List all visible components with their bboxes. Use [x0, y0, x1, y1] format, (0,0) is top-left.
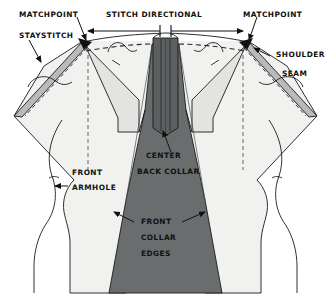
- matchpoint-right-leader: [249, 17, 257, 40]
- shoulder-seam-label-line2: SEAM: [282, 69, 307, 78]
- matchpoint-left-label: MATCHPOINT: [19, 10, 78, 19]
- matchpoint-right-label: MATCHPOINT: [243, 10, 302, 19]
- center-back-collar-label-line2: BACK COLLAR: [137, 167, 200, 176]
- matchpoint-left-leader: [77, 17, 86, 40]
- front-collar-edges-label-line3: EDGES: [141, 249, 171, 258]
- front-collar-edges-label-line1: FRONT: [141, 217, 172, 226]
- right-armhole-notch: [272, 177, 282, 179]
- left-armhole-notch: [49, 177, 59, 179]
- shoulder-seam-label-line1: SHOULDER: [276, 50, 325, 59]
- front-collar-edges-label-line2: COLLAR: [141, 233, 176, 242]
- front-armhole-label-line1: FRONT: [72, 168, 103, 177]
- staystitch-leader: [29, 40, 41, 62]
- stitch-directional-label: STITCH DIRECTIONAL: [106, 10, 202, 19]
- front-armhole-label-line2: ARMHOLE: [72, 183, 116, 192]
- staystitch-label: STAYSTITCH: [19, 31, 73, 40]
- collar-construction-diagram: MATCHPOINT STAYSTITCH STITCH DIRECTIONAL…: [0, 0, 331, 295]
- diagram-canvas: MATCHPOINT STAYSTITCH STITCH DIRECTIONAL…: [0, 0, 331, 295]
- center-back-collar-label-line1: CENTER: [146, 151, 181, 160]
